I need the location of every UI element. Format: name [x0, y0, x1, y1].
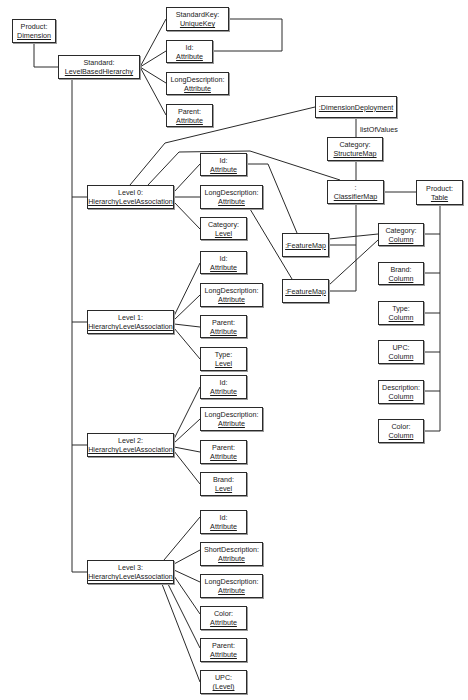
- object-type: HierarchyLevelAssociation: [88, 197, 173, 206]
- object-type: Dimension: [17, 31, 51, 40]
- object-type: Attribute: [210, 452, 237, 461]
- object-role: Product:: [426, 184, 453, 193]
- object-role: Standard:: [83, 58, 114, 67]
- object-type: :DimensionDeployment: [319, 103, 393, 112]
- level-1-id-attribute[interactable]: Id: Attribute: [200, 251, 247, 274]
- level-3-parent-attribute[interactable]: Parent: Attribute: [200, 638, 247, 662]
- object-role: Level 2:: [118, 436, 143, 445]
- level-3-color-attribute[interactable]: Color: Attribute: [200, 606, 247, 630]
- description-column-object[interactable]: Description: Column: [378, 380, 424, 404]
- level-0-longdescription-attribute[interactable]: LongDescription: Attribute: [200, 185, 263, 209]
- level-0-association[interactable]: Level 0: HierarchyLevelAssociation: [87, 185, 174, 209]
- brand-column-object[interactable]: Brand: Column: [378, 262, 424, 285]
- category-column-object[interactable]: Category: Column: [378, 223, 424, 246]
- object-role: LongDescription:: [171, 75, 225, 84]
- feature-map-2-object[interactable]: :FeatureMap: [282, 279, 329, 303]
- standard-id-attribute[interactable]: Id: Attribute: [166, 40, 213, 63]
- upc-column-object[interactable]: UPC: Column: [378, 340, 424, 364]
- category-structuremap-object[interactable]: Category: StructureMap: [327, 137, 383, 161]
- object-role: Category:: [208, 220, 239, 229]
- object-role: LongDescription:: [205, 188, 259, 197]
- object-type: Attribute: [176, 116, 203, 125]
- object-role: Type:: [215, 350, 233, 359]
- level-3-id-attribute[interactable]: Id: Attribute: [200, 510, 247, 534]
- object-type: Level: [215, 484, 232, 493]
- level-3-upc-level[interactable]: UPC: (Level): [200, 670, 247, 694]
- object-type: Level: [215, 229, 232, 238]
- level-2-brand-level[interactable]: Brand: Level: [200, 472, 247, 496]
- level-2-id-attribute[interactable]: Id: Attribute: [200, 375, 247, 399]
- object-type: Column: [389, 274, 414, 283]
- object-type: Attribute: [218, 295, 245, 304]
- feature-map-1-object[interactable]: :FeatureMap: [282, 233, 329, 257]
- object-type: Attribute: [184, 84, 211, 93]
- object-type: Attribute: [218, 554, 245, 563]
- object-role: Parent:: [212, 641, 235, 650]
- object-type: Attribute: [210, 618, 237, 627]
- object-role: ShortDescription:: [204, 545, 259, 554]
- object-role: Color:: [214, 609, 233, 618]
- object-type: Attribute: [218, 197, 245, 206]
- object-role: Id:: [220, 254, 228, 263]
- standard-hierarchy-object[interactable]: Standard: LevelBasedHierarchy: [58, 55, 140, 79]
- object-type: StructureMap: [333, 149, 376, 158]
- level-2-parent-attribute[interactable]: Parent: Attribute: [200, 440, 247, 464]
- object-role: LongDescription:: [205, 286, 259, 295]
- level-0-category-level[interactable]: Category: Level: [200, 217, 247, 240]
- object-role: Parent:: [212, 443, 235, 452]
- object-type: UniqueKey: [180, 19, 215, 28]
- object-type: Table: [431, 193, 448, 202]
- object-role: Brand:: [213, 475, 234, 484]
- standard-key-object[interactable]: StandardKey: UniqueKey: [166, 7, 229, 31]
- level-2-association[interactable]: Level 2: HierarchyLevelAssociation: [87, 433, 174, 457]
- object-type: (Level): [213, 682, 235, 691]
- color-column-object[interactable]: Color: Column: [378, 419, 424, 443]
- product-table-object[interactable]: Product: Table: [416, 180, 463, 205]
- level-3-association[interactable]: Level 3: HierarchyLevelAssociation: [87, 560, 174, 584]
- object-type: Column: [389, 235, 414, 244]
- object-role: Id:: [186, 43, 194, 52]
- type-column-object[interactable]: Type: Column: [378, 301, 424, 325]
- object-role: Level 0:: [118, 188, 143, 197]
- level-1-longdescription-attribute[interactable]: LongDescription: Attribute: [200, 283, 263, 307]
- object-role: Category:: [385, 226, 416, 235]
- object-role: Parent:: [212, 318, 235, 327]
- level-1-type-level[interactable]: Type: Level: [200, 347, 247, 371]
- level-1-parent-attribute[interactable]: Parent: Attribute: [200, 315, 247, 338]
- object-type: Column: [389, 352, 414, 361]
- standard-longdescription-attribute[interactable]: LongDescription: Attribute: [166, 72, 229, 95]
- object-type: Attribute: [210, 263, 237, 272]
- object-role: Level 3:: [118, 563, 143, 572]
- dimension-deployment-object[interactable]: :DimensionDeployment: [315, 96, 397, 118]
- object-type: Column: [389, 313, 414, 322]
- object-role: Product:: [21, 22, 48, 31]
- object-role: :: [355, 183, 357, 192]
- object-role: UPC:: [215, 673, 232, 682]
- level-3-longdescription-attribute[interactable]: LongDescription: Attribute: [200, 574, 263, 598]
- object-role: Id:: [220, 378, 228, 387]
- level-1-association[interactable]: Level 1: HierarchyLevelAssociation: [87, 310, 174, 334]
- object-type: Attribute: [210, 522, 237, 531]
- object-role: Id:: [220, 513, 228, 522]
- classifier-map-object[interactable]: : ClassifierMap: [327, 180, 384, 204]
- object-role: Brand:: [390, 265, 411, 274]
- object-role: Description:: [382, 383, 420, 392]
- object-type: Attribute: [210, 165, 237, 174]
- object-type: :FeatureMap: [285, 287, 326, 296]
- object-type: Column: [389, 392, 414, 401]
- level-0-id-attribute[interactable]: Id: Attribute: [200, 153, 247, 176]
- object-type: :FeatureMap: [285, 241, 326, 250]
- object-type: HierarchyLevelAssociation: [88, 445, 173, 454]
- object-type: Attribute: [210, 327, 237, 336]
- object-type: Attribute: [210, 650, 237, 659]
- object-role: Color:: [391, 422, 410, 431]
- product-dimension-object[interactable]: Product: Dimension: [12, 19, 56, 43]
- level-2-longdescription-attribute[interactable]: LongDescription: Attribute: [200, 407, 263, 431]
- object-type: HierarchyLevelAssociation: [88, 572, 173, 581]
- level-3-shortdescription-attribute[interactable]: ShortDescription: Attribute: [200, 542, 263, 566]
- list-of-values-label: listOfValues: [360, 125, 398, 134]
- object-role: StandardKey:: [176, 10, 220, 19]
- object-role: LongDescription:: [205, 577, 259, 586]
- object-role: Id:: [220, 156, 228, 165]
- standard-parent-attribute[interactable]: Parent: Attribute: [166, 104, 213, 127]
